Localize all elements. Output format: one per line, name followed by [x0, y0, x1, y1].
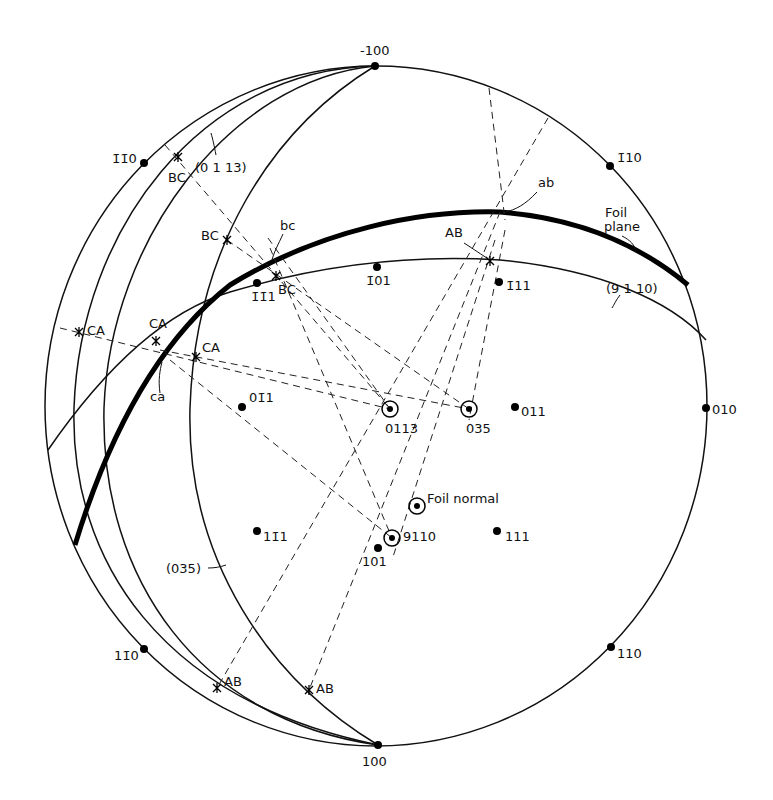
intersection-marker: BC	[168, 152, 186, 185]
intersection-markers-layer: BCBCBCCACACAABABAB	[75, 152, 494, 696]
annotation-text: ab	[538, 175, 554, 190]
pole: 11̄0	[114, 645, 148, 663]
pole: 01̄1	[238, 390, 274, 411]
pole-label: 101	[362, 554, 387, 569]
pole-dot-icon	[387, 406, 393, 412]
pole-dot-icon	[374, 741, 382, 749]
pole-label: 1̄01	[366, 273, 391, 288]
marker-label: BC	[278, 282, 296, 297]
intersection-marker: AB	[305, 681, 334, 696]
star-icon	[486, 256, 494, 266]
pole-dot-icon	[607, 643, 615, 651]
pole: 1̄11	[495, 278, 531, 293]
annotation-text: Foil	[605, 205, 627, 220]
marker-label: CA	[202, 340, 220, 355]
pole-dot-icon	[702, 404, 710, 412]
special-pole-label: 0113	[385, 421, 418, 436]
marker-label: CA	[87, 323, 105, 338]
pole-label: 01̄1	[249, 390, 274, 405]
pole: 111	[493, 527, 530, 544]
star-icon	[223, 235, 231, 245]
pole-dot-icon	[606, 162, 614, 170]
intersection-marker: CA	[75, 323, 105, 338]
marker-label: AB	[316, 681, 334, 696]
pole-label: 011	[521, 404, 546, 419]
pole-label: -100	[360, 43, 390, 58]
pole-label: 11̄1	[263, 529, 288, 544]
pole-label: 11̄0	[114, 648, 139, 663]
special-pole: 9110	[384, 529, 436, 546]
star-icon	[152, 336, 160, 346]
special-pole-label: 9110	[403, 529, 436, 544]
pole: 011	[511, 403, 546, 419]
pole-dot-icon	[140, 645, 148, 653]
marker-label: BC	[168, 170, 186, 185]
special-pole-label: Foil normal	[427, 491, 499, 506]
pole-dot-icon	[511, 403, 519, 411]
intersection-marker: BC	[201, 228, 231, 245]
marker-label: CA	[149, 316, 167, 331]
pole: 1̄1̄0	[112, 151, 148, 167]
annotations-layer: (0 1 13)bcabFoilplane(9 1 10)(035)ca	[150, 160, 658, 576]
marker-label: BC	[201, 228, 219, 243]
marker-label: AB	[445, 225, 463, 240]
pole-label: 010	[712, 402, 737, 417]
pole-dot-icon	[495, 278, 503, 286]
pole-dot-icon	[466, 406, 472, 412]
pole-dot-icon	[371, 62, 379, 70]
pole-label: 1̄1̄0	[112, 151, 137, 166]
pole-dot-icon	[253, 279, 261, 287]
marker-label: AB	[224, 674, 242, 689]
pole: 1̄10	[606, 150, 642, 170]
pole: 1̄01	[366, 263, 391, 288]
special-pole-label: 035	[466, 421, 491, 436]
annotation-text: bc	[280, 218, 295, 233]
pole-dot-icon	[140, 159, 148, 167]
pole-label: 1̄11	[506, 278, 531, 293]
special-pole: Foil normal	[409, 491, 499, 514]
annotation-text: (9 1 10)	[606, 281, 658, 296]
construction-lines	[60, 88, 548, 690]
pole-label: 1̄10	[617, 150, 642, 165]
pole-dot-icon	[374, 544, 382, 552]
annotation-text: plane	[604, 219, 640, 234]
pole-label: 110	[617, 646, 642, 661]
pole-dot-icon	[414, 503, 420, 509]
pole-label: 100	[362, 754, 387, 769]
pole-dot-icon	[238, 403, 246, 411]
stereographic-projection: -1001000101̄1̄01̄1011̄01101̄011̄1̄11̄110…	[0, 0, 773, 800]
pole-dot-icon	[253, 527, 261, 535]
pole-dot-icon	[373, 263, 381, 271]
pole-label: 1̄1̄1	[251, 289, 276, 304]
pole-dot-icon	[389, 535, 395, 541]
pole: 110	[607, 643, 642, 661]
special-pole: 0113	[382, 401, 418, 436]
star-icon	[213, 683, 221, 693]
annotation-text: (0 1 13)	[195, 160, 247, 175]
special-poles-layer: 01130359110Foil normal	[382, 401, 499, 546]
annotation-text: ca	[150, 389, 165, 404]
leader-arrows	[159, 133, 636, 568]
poles-layer: -1001000101̄1̄01̄1011̄01101̄011̄1̄11̄110…	[112, 43, 737, 769]
pole: 11̄1	[253, 527, 288, 544]
intersection-marker: CA	[149, 316, 167, 346]
pole-label: 111	[505, 529, 530, 544]
annotation-text: (035)	[166, 561, 201, 576]
pole-dot-icon	[493, 527, 501, 535]
